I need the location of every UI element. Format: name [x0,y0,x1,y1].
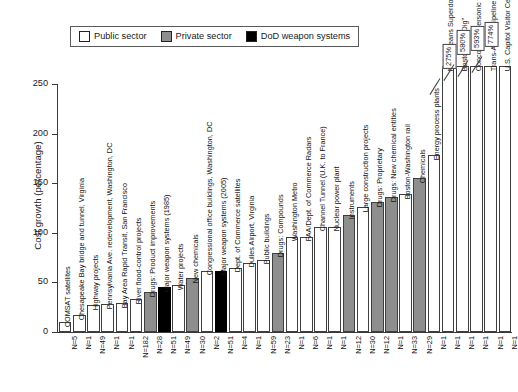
clipped-bar-value-callout: 774% [485,22,499,47]
bar-sample-size-label: N=51 [170,336,177,354]
bar-dod [215,271,228,333]
bar-sample-size-label: N=30 [199,336,206,354]
y-tick-label: 0 [18,326,48,336]
bar-category-label: Chemicals [418,149,425,183]
legend-label-dod: DoD weapon systems [261,32,350,41]
bar-sample-size-label: N=1 [298,336,305,350]
bar-category-label: Dept. of Commerce satellites [234,179,241,273]
bar-private [343,215,356,332]
bar-public [286,237,299,332]
bar-public [328,227,341,332]
bar-public [399,194,412,332]
bar-sample-size-label: N=33 [411,336,418,354]
y-tick-label: 200 [18,128,48,138]
bar-private [413,178,426,332]
bar-public [357,207,370,332]
bar-category-label: Congressional office buildings, Washingt… [205,122,212,276]
bar-category-label: Major weapon systems (1985) [163,194,170,292]
bar-sample-size-label: N=1 [255,336,262,350]
legend-item-dod: DoD weapon systems [246,31,350,42]
y-tick [52,332,57,333]
bar-sample-size-label: N=6 [312,336,319,350]
bar-sample-size-label: N=1 [440,336,447,350]
y-tick [52,233,57,234]
bar-sample-size-label: N=12 [355,336,362,354]
bar-sample-size-label: N=49 [184,336,191,354]
bar-category-label: Pennsylvania Ave. redevelopment, Washing… [106,142,113,309]
bar-category-label: Drugs: Compounds [276,195,283,258]
bar-public [499,66,512,332]
bar-public [456,66,469,332]
bar-public [314,227,327,332]
chart-legend: Public sector Private sector DoD weapon … [70,26,359,47]
bar-category-label: Boston-Washington rail [404,124,411,199]
bar-sample-size-label: N=5 [71,336,78,350]
x-axis-line [57,332,512,333]
clipped-bar-value-callout: 275% [443,44,457,69]
bar-category-label: Water projects [177,243,184,290]
bar-sample-size-label: N=1 [128,336,135,350]
bar-private [371,202,384,332]
bar-public [243,263,256,332]
bar-category-label: Drugs: New chemical entities [390,108,397,202]
legend-swatch-public-icon [79,31,90,42]
bar-public [172,285,185,332]
bar-private [385,197,398,332]
y-tick [52,183,57,184]
bar-sample-size-label: N=51 [227,336,234,354]
bar-public [470,66,483,332]
bar-public [442,66,455,332]
clipped-bar-value-callout: 580% [457,30,471,55]
bar-category-label: Channel Tunnel (U.K. to France) [319,127,326,232]
bar-category-label: Dulles Airport, Virginia [248,196,255,268]
bar-sample-size-label: N=1 [468,336,475,350]
bar-sample-size-label: N=1 [85,336,92,350]
bar-category-label: COMSAT satellites [64,266,71,327]
bar-sample-size-label: N=12 [383,336,390,354]
bar-category-label: Highway projects [92,254,99,310]
bar-category-label: Large construction projects [362,124,369,212]
legend-label-private: Private sector [176,32,232,41]
bar-sample-size-label: N=29 [426,336,433,354]
y-tick-label: 150 [18,177,48,187]
bar-sample-size-label: N=1 [326,336,333,350]
bar-sample-size-label: N=1 [511,336,518,350]
bar-sample-size-label: N=1 [454,336,461,350]
legend-swatch-dod-icon [246,31,257,42]
bar-sample-size-label: N=4 [241,336,248,350]
bar-category-label: U.S. Capitol Visitor Center [503,0,510,71]
bar-sample-size-label: N=28 [156,336,163,354]
bar-public [484,66,497,332]
legend-label-public: Public sector [94,32,147,41]
bar-sample-size-label: N=1 [482,336,489,350]
bar-private [144,292,157,332]
bar-sample-size-label: N=1 [497,336,504,350]
bar-category-label: Drugs: Product improvements [149,201,156,298]
legend-item-public: Public sector [79,31,147,42]
bar-category-label: FAA/Dept. of Commerce Radars [305,137,312,242]
bar-category-label: Chesapeake Bay bridge and tunnel, Virgin… [78,178,85,320]
bar-sample-size-label: N=30 [369,336,376,354]
bar-sample-size-label: N=1 [113,336,120,350]
legend-item-private: Private sector [161,31,232,42]
y-tick-label: 50 [18,276,48,286]
bar-dod [158,287,171,332]
bar-category-label: Energy process plants [432,88,439,160]
bar-public [428,155,441,332]
y-tick [52,84,57,85]
bar-sample-size-label: N=182 [142,336,149,358]
bar-sample-size-label: N=2 [213,336,220,350]
bar-public [257,260,270,332]
bar-category-label: New chemicals [191,234,198,283]
bar-category-label: Public buildings [262,214,269,265]
bar-private [186,278,199,332]
bar-sample-size-label: N=1 [397,336,404,350]
y-tick [52,282,57,283]
bar-public [300,237,313,332]
bar-sample-size-label: N=23 [284,336,291,354]
legend-swatch-private-icon [161,31,172,42]
bar-sample-size-label: N=1 [340,336,347,350]
y-tick [52,134,57,135]
bar-category-label: Drugs: Proprietary [376,148,383,207]
bar-public [229,268,242,332]
